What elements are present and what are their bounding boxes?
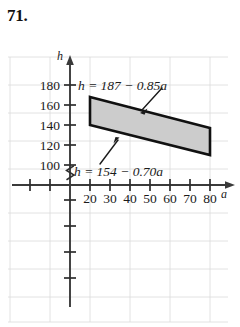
x-axis-label-20: 20 bbox=[83, 191, 97, 206]
grid-lines bbox=[8, 57, 228, 322]
axis-break-zigzag bbox=[67, 166, 75, 180]
x-axis-label-60: 60 bbox=[163, 191, 177, 206]
coordinate-graph: 180 160 140 120 100 20 30 40 50 60 70 80… bbox=[0, 0, 240, 327]
upper-boundary-equation-label: h = 187 − 0.85a bbox=[78, 78, 167, 93]
y-axis-label-120: 120 bbox=[40, 138, 61, 153]
y-axis-variable-label: h bbox=[57, 49, 63, 63]
x-axis-label-70: 70 bbox=[183, 191, 197, 206]
x-axis-label-40: 40 bbox=[123, 191, 137, 206]
y-axis-label-180: 180 bbox=[40, 78, 61, 93]
x-axis-label-50: 50 bbox=[143, 191, 157, 206]
y-axis-label-100: 100 bbox=[40, 158, 61, 173]
y-axis-label-160: 160 bbox=[40, 98, 61, 113]
x-axis-label-30: 30 bbox=[103, 191, 117, 206]
x-axis-label-80: 80 bbox=[203, 191, 217, 206]
x-axis-variable-label: a bbox=[221, 187, 227, 201]
lower-boundary-equation-label: h = 154 − 0.70a bbox=[74, 164, 163, 179]
lower-equation-leader-line bbox=[100, 140, 118, 164]
y-axis-label-140: 140 bbox=[40, 118, 61, 133]
shaded-feasible-region bbox=[90, 97, 210, 155]
figure-page: 71. bbox=[0, 0, 240, 327]
y-axis-arrowhead bbox=[66, 55, 74, 65]
